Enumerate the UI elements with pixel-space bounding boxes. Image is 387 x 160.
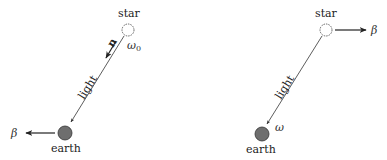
light-label: light <box>273 73 298 102</box>
earth-icon <box>255 127 269 141</box>
left-panel: star n ω0 light β earth <box>10 7 141 155</box>
earth-label: earth <box>246 143 276 156</box>
beta-label: β <box>370 24 377 37</box>
light-label: light <box>76 73 101 102</box>
right-panel: star β light ω earth <box>246 7 377 156</box>
earth-label: earth <box>51 142 81 155</box>
star-icon <box>122 24 134 36</box>
beta-label: β <box>10 127 17 140</box>
doppler-diagram: star n ω0 light β earth star β light ω e… <box>0 0 387 160</box>
n-label: n <box>105 36 120 50</box>
star-label: star <box>315 7 338 20</box>
omega0-label: ω0 <box>127 39 141 53</box>
earth-icon <box>58 126 72 140</box>
omega-label: ω <box>275 121 284 134</box>
star-icon <box>320 24 332 36</box>
star-label: star <box>118 7 141 20</box>
